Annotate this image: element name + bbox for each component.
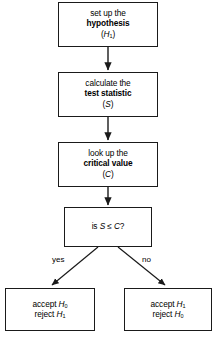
- node-decision-line1: is S ≤ C?: [92, 222, 125, 232]
- node-statistic-line2: test statistic: [84, 89, 131, 99]
- node-hypothesis-line2: hypothesis: [87, 19, 130, 29]
- node-accept-h0-reject-h1: accept H0 reject H1: [5, 288, 95, 331]
- edge-decision-to-accept-h1: [118, 247, 165, 285]
- node-set-up-hypothesis: set up the hypothesis (H1): [58, 2, 158, 47]
- node-decision-is-s-le-c: is S ≤ C?: [64, 207, 152, 247]
- node-accept-h0-line2: reject H1: [35, 310, 66, 320]
- node-accept-h1-line2: reject H0: [153, 310, 184, 320]
- node-calculate-test-statistic: calculate the test statistic (S): [58, 72, 158, 117]
- node-accept-h1-reject-h0: accept H1 reject H0: [124, 288, 212, 331]
- node-hypothesis-line3: (H1): [101, 30, 115, 40]
- node-critical-line2: critical value: [84, 159, 133, 169]
- edge-label-yes: yes: [52, 255, 64, 264]
- node-look-up-critical-value: look up the critical value (C): [58, 142, 158, 187]
- edge-label-no: no: [142, 255, 151, 264]
- node-statistic-line3: (S): [103, 100, 114, 110]
- node-critical-line3: (C): [102, 170, 113, 180]
- flowchart-diagram: set up the hypothesis (H1) calculate the…: [0, 0, 215, 337]
- edge-decision-to-accept-h0: [52, 247, 98, 285]
